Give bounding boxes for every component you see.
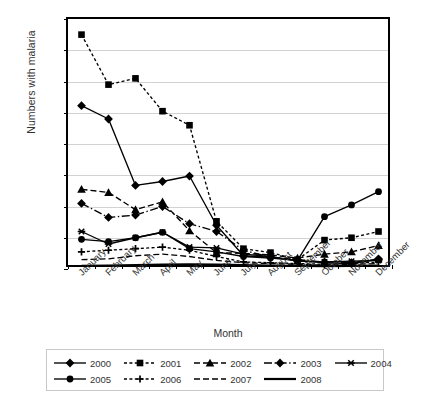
malaria-line-chart-figure: Numbers with malaria 02004006008001,0001… xyxy=(0,0,424,410)
plus-marker xyxy=(137,375,144,382)
series-2000 xyxy=(77,101,383,268)
diamond-marker xyxy=(77,199,86,208)
diamond-marker xyxy=(104,213,113,222)
chart-legend: 200020012002200320042005200620072008 xyxy=(46,349,384,391)
legend-marker-2007 xyxy=(193,372,227,386)
legend-item-2007[interactable]: 2007 xyxy=(193,372,251,386)
legend-marker-2005 xyxy=(53,372,87,386)
circle-marker xyxy=(105,238,112,245)
legend-label: 2003 xyxy=(297,358,321,369)
legend-item-2000[interactable]: 2000 xyxy=(53,356,111,370)
circle-marker xyxy=(159,229,166,236)
square-marker xyxy=(105,81,112,88)
circle-marker xyxy=(78,236,85,243)
legend-marker-2003 xyxy=(263,356,297,370)
legend-label: 2006 xyxy=(157,374,181,385)
square-marker xyxy=(213,218,220,225)
diamond-marker xyxy=(66,359,75,368)
series-line-2001 xyxy=(82,35,379,260)
legend-glyph xyxy=(123,372,157,386)
legend-marker-2001 xyxy=(123,356,157,370)
legend-glyph xyxy=(53,356,87,370)
legend-label: 2001 xyxy=(157,358,181,369)
series-layer xyxy=(68,19,392,269)
legend-glyph xyxy=(193,356,227,370)
legend-label: 2008 xyxy=(297,374,321,385)
legend-label: 2000 xyxy=(87,358,111,369)
diamond-marker xyxy=(77,101,86,110)
legend-glyph xyxy=(53,372,87,386)
diamond-marker xyxy=(131,181,140,190)
legend-label: 2005 xyxy=(87,374,111,385)
legend-marker-2004 xyxy=(334,356,368,370)
square-marker xyxy=(348,234,355,241)
legend-marker-2008 xyxy=(263,372,297,386)
y-axis-title: Numbers with malaria xyxy=(25,2,37,162)
legend-glyph xyxy=(193,372,227,386)
legend-glyph xyxy=(123,356,157,370)
square-marker xyxy=(78,31,85,38)
plus-marker xyxy=(78,248,85,255)
triangle-marker xyxy=(104,188,113,196)
legend-item-2005[interactable]: 2005 xyxy=(53,372,111,386)
legend-item-2004[interactable]: 2004 xyxy=(334,356,392,370)
diamond-marker xyxy=(104,115,113,124)
square-marker xyxy=(186,122,193,129)
star-marker xyxy=(347,360,355,365)
legend-row: 20002001200220032004 xyxy=(53,355,377,371)
square-marker xyxy=(132,75,139,82)
legend-marker-2002 xyxy=(193,356,227,370)
legend-label: 2007 xyxy=(227,374,251,385)
diamond-marker xyxy=(158,177,167,186)
legend-glyph xyxy=(263,356,297,370)
legend-label: 2002 xyxy=(227,358,251,369)
legend-glyph xyxy=(263,372,297,386)
square-marker xyxy=(159,108,166,115)
star-marker xyxy=(78,229,86,234)
diamond-marker xyxy=(185,172,194,181)
circle-marker xyxy=(375,188,382,195)
legend-item-2008[interactable]: 2008 xyxy=(263,372,321,386)
legend-item-2001[interactable]: 2001 xyxy=(123,356,181,370)
legend-label: 2004 xyxy=(368,358,392,369)
square-marker xyxy=(375,228,382,235)
legend-marker-2006 xyxy=(123,372,157,386)
square-marker xyxy=(137,360,144,367)
legend-row: 2005200620072008 xyxy=(53,371,377,387)
plot-area xyxy=(66,17,390,267)
circle-marker xyxy=(67,376,74,383)
legend-item-2003[interactable]: 2003 xyxy=(263,356,321,370)
legend-marker-2000 xyxy=(53,356,87,370)
circle-marker xyxy=(321,213,328,220)
triangle-marker xyxy=(77,185,86,193)
legend-item-2002[interactable]: 2002 xyxy=(193,356,251,370)
series-2001 xyxy=(78,31,382,263)
circle-marker xyxy=(132,234,139,241)
circle-marker xyxy=(348,202,355,209)
legend-glyph xyxy=(334,356,368,370)
legend-item-2006[interactable]: 2006 xyxy=(123,372,181,386)
x-axis-title: Month xyxy=(66,327,390,339)
diamond-marker xyxy=(276,359,285,368)
plus-marker xyxy=(159,244,166,251)
x-axis-tick-labels: JanuaryFebruaryMarchAprilMayJuneJulyAugu… xyxy=(66,270,390,322)
